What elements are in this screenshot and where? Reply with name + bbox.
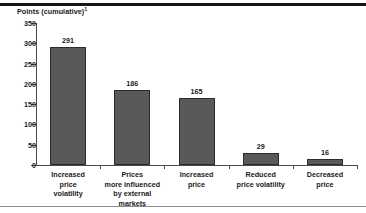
x-axis-tick: [293, 165, 294, 169]
y-axis-tick-label: 50: [10, 140, 36, 149]
x-axis-tick: [229, 165, 230, 169]
y-axis-tick-label: 300: [10, 39, 36, 48]
bar: [50, 47, 86, 165]
bar: [307, 159, 343, 165]
y-axis-tick-label: 0: [10, 161, 36, 170]
bar: [243, 153, 279, 165]
bar-value-label: 165: [191, 87, 203, 96]
x-axis-category-label-line: markets: [94, 199, 170, 209]
x-axis-category-label-line: by external: [94, 189, 170, 199]
y-axis-tick-label: 100: [10, 120, 36, 129]
bar-value-label: 186: [126, 79, 138, 88]
bar-value-label: 16: [321, 148, 329, 157]
y-axis-tick-label: 350: [10, 19, 36, 28]
x-axis-category-label-line: price: [287, 180, 363, 190]
y-axis-tick-label: 200: [10, 79, 36, 88]
y-axis-tick-label: 250: [10, 59, 36, 68]
x-axis-tick: [357, 165, 358, 169]
x-axis-line: [36, 165, 357, 166]
bar: [114, 90, 150, 165]
x-axis-tick: [164, 165, 165, 169]
chart-figure: Points (cumulative)1 0501001502002503003…: [0, 0, 366, 213]
y-axis-tick-label: 150: [10, 100, 36, 109]
bar-value-label: 291: [62, 36, 74, 45]
bar: [179, 98, 215, 165]
y-axis-line: [36, 23, 37, 166]
x-axis-category-label-line: Decreased: [287, 170, 363, 180]
x-axis-tick: [100, 165, 101, 169]
plot-area: 050100150200250300350 2911861652916 Incr…: [0, 0, 366, 213]
x-axis-category-label: Decreasedprice: [287, 170, 363, 189]
bar-value-label: 29: [257, 142, 265, 151]
